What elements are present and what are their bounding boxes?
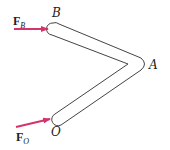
point-label-b: B <box>51 6 61 20</box>
force-fb: FB <box>13 14 48 30</box>
point-label-a: A <box>148 58 158 72</box>
force-fo: FO <box>16 119 50 146</box>
force-fo-arrow <box>16 119 50 127</box>
bar-outline <box>46 23 144 126</box>
force-fb-label: FB <box>13 14 25 30</box>
point-label-o: O <box>51 125 61 139</box>
bent-bar <box>46 23 144 126</box>
bent-bar-diagram: FB FO B A O <box>0 0 170 150</box>
force-fo-label: FO <box>16 130 29 146</box>
